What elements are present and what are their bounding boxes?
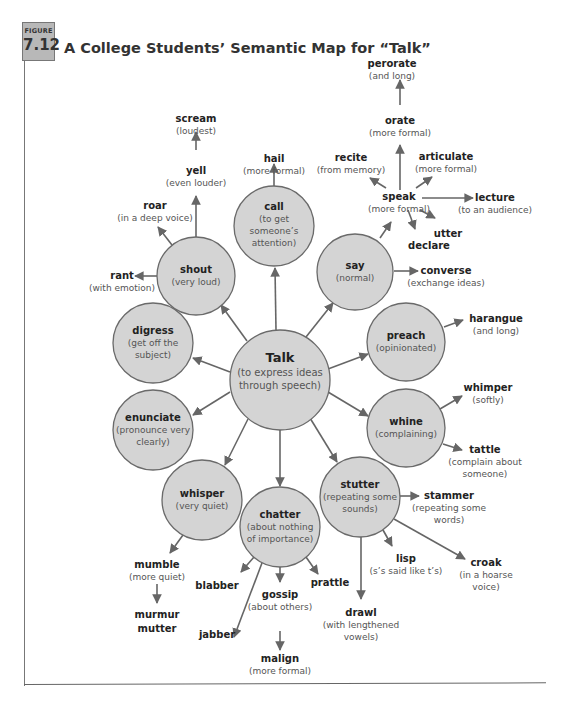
node-talk: Talk (to express ideas through speech) [237, 350, 323, 392]
node-call: call (to get someone’s attention) [250, 201, 299, 249]
node-shout: shout (very loud) [171, 264, 220, 288]
leaf-utter: utter [434, 228, 462, 240]
leaf-tattle: tattle (complain about someone) [448, 444, 522, 480]
leaf-orate: orate (more formal) [369, 115, 431, 139]
leaf-converse: converse (exchange ideas) [407, 265, 485, 289]
node-whine: whine (complaining) [375, 416, 437, 440]
leaf-whimper: whimper (softly) [463, 382, 512, 406]
leaf-gossip: gossip (about others) [248, 589, 313, 613]
leaf-articulate: articulate (more formal) [415, 151, 477, 175]
node-say: say (normal) [336, 260, 375, 284]
leaf-lecture: lecture (to an audience) [458, 192, 532, 216]
leaf-declare: declare [408, 240, 450, 252]
leaf-jabber: jabber [199, 629, 235, 641]
leaf-croak: croak (in a hoarse voice) [459, 557, 513, 593]
leaf-mumble: mumble (more quiet) [129, 559, 185, 583]
leaf-yell: yell (even louder) [166, 165, 227, 189]
leaf-murmur: murmur [135, 609, 180, 621]
node-whisper: whisper (very quiet) [176, 488, 229, 512]
leaf-harangue: harangue (and long) [469, 313, 523, 337]
leaf-speak: speak (more formal) [368, 191, 430, 215]
leaf-recite: recite (from memory) [317, 152, 385, 176]
leaf-stammer: stammer (repeating some words) [412, 490, 486, 526]
node-stutter: stutter (repeating some sounds) [323, 479, 397, 515]
leaf-prattle: prattle [311, 577, 350, 589]
node-enunciate: enunciate (pronounce very clearly) [116, 412, 190, 448]
leaf-lisp: lisp (s’s said like t’s) [370, 553, 443, 577]
leaf-hail: hail (more formal) [243, 153, 305, 177]
leaf-scream: scream (loudest) [176, 113, 217, 137]
leaf-malign: malign (more formal) [249, 653, 311, 677]
node-preach: preach (opinionated) [376, 330, 436, 354]
leaf-blabber: blabber [195, 580, 238, 592]
node-chatter: chatter (about nothing of importance) [247, 509, 314, 545]
leaf-drawl: drawl (with lengthened vowels) [323, 607, 400, 643]
leaf-perorate: perorate (and long) [368, 58, 417, 82]
node-digress: digress (get off the subject) [128, 325, 179, 361]
leaf-roar: roar (in a deep voice) [117, 200, 193, 224]
leaf-mutter: mutter [138, 623, 177, 635]
leaf-rant: rant (with emotion) [89, 270, 155, 294]
